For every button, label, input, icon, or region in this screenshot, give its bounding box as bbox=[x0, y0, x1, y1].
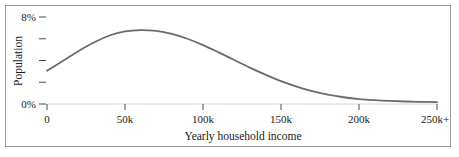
x-axis-ticks bbox=[47, 104, 437, 110]
chart-frame: 8% 0% Population 0 50k 100k 150k 200k 25… bbox=[5, 5, 451, 147]
y-axis-title: Population bbox=[12, 36, 25, 86]
x-axis-title: Yearly household income bbox=[184, 130, 301, 143]
y-axis-ticks bbox=[39, 17, 46, 104]
income-distribution-chart: 8% 0% Population 0 50k 100k 150k 200k 25… bbox=[6, 6, 450, 146]
population-distribution-curve bbox=[47, 30, 437, 102]
x-tick-label-0: 0 bbox=[44, 113, 50, 125]
x-tick-label-150k: 150k bbox=[270, 113, 293, 125]
x-tick-label-100k: 100k bbox=[192, 113, 215, 125]
y-tick-label-top: 8% bbox=[21, 11, 36, 23]
x-tick-label-200k: 200k bbox=[348, 113, 371, 125]
x-tick-label-250k: 250k+ bbox=[421, 113, 449, 125]
x-tick-label-50k: 50k bbox=[117, 113, 134, 125]
y-tick-label-bottom: 0% bbox=[21, 98, 36, 110]
